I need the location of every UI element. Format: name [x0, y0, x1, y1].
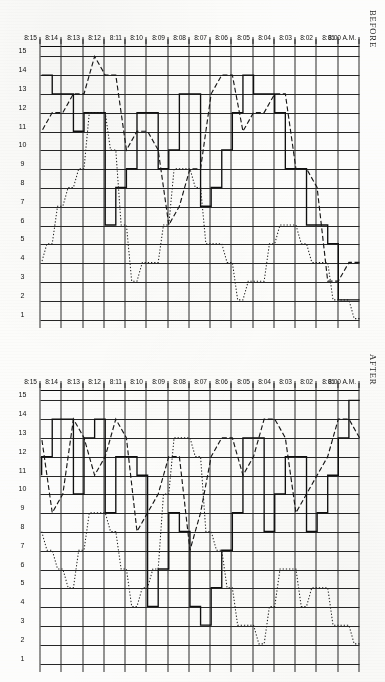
time-tick-label: 8:11	[109, 378, 121, 385]
value-tick-label: 7	[20, 542, 24, 550]
value-tick-label: 1	[20, 655, 24, 663]
plot-area-after	[40, 390, 359, 672]
time-tick-label: 8:02	[300, 34, 313, 41]
scanned-page: BEFORE 8:00 A.M.8:018:028:038:048:058:06…	[0, 0, 385, 682]
time-tick-label: 8:15	[24, 378, 37, 385]
value-tick-label: 6	[20, 561, 24, 569]
figure-stage: BEFORE 8:00 A.M.8:018:028:038:048:058:06…	[0, 0, 385, 682]
value-tick-label: 5	[20, 235, 24, 243]
value-axis-before: 151413121110987654321	[22, 46, 38, 328]
series-path-dashed	[41, 419, 359, 550]
chart-panel-before: BEFORE 8:00 A.M.8:018:028:038:048:058:06…	[0, 8, 385, 338]
series-lines-before	[41, 47, 359, 328]
value-tick-label: 5	[20, 579, 24, 587]
value-axis-after: 151413121110987654321	[22, 390, 38, 672]
time-gridline	[39, 383, 40, 672]
value-tick-label: 7	[20, 198, 24, 206]
value-tick-label: 10	[18, 141, 26, 149]
time-tick-label: 8:14	[45, 378, 58, 385]
value-tick-label: 15	[18, 391, 26, 399]
plot-area-before	[40, 46, 359, 328]
value-tick-label: 3	[20, 273, 24, 281]
value-tick-label: 9	[20, 160, 24, 168]
time-tick-label: 8:10	[130, 34, 143, 41]
time-tick-label: 8:12	[87, 34, 100, 41]
time-tick-label: 8:02	[300, 378, 313, 385]
time-tick-label: 8:01	[321, 378, 334, 385]
value-tick-label: 11	[18, 467, 25, 475]
time-tick-label: 8:04	[258, 378, 271, 385]
time-tick-label: 8:08	[173, 378, 186, 385]
value-tick-label: 4	[20, 254, 24, 262]
time-tick-label: 8:08	[173, 34, 186, 41]
value-tick-label: 12	[18, 448, 26, 456]
value-tick-label: 14	[18, 66, 26, 74]
value-tick-label: 13	[18, 429, 26, 437]
value-tick-label: 4	[20, 598, 24, 606]
value-tick-label: 10	[18, 485, 26, 493]
time-tick-label: 8:12	[87, 378, 100, 385]
time-tick-label: 8:09	[151, 34, 164, 41]
value-tick-label: 3	[20, 617, 24, 625]
time-gridline	[39, 39, 40, 328]
panel-title-before: BEFORE	[367, 10, 377, 48]
time-tick-label: 8:09	[151, 378, 164, 385]
value-tick-label: 14	[18, 410, 26, 418]
panel-title-after: AFTER	[367, 354, 377, 385]
time-tick-label: 8:11	[109, 34, 121, 41]
time-tick-label: 8:13	[66, 34, 79, 41]
time-tick-label: 8:14	[45, 34, 58, 41]
value-tick-label: 11	[18, 123, 25, 131]
time-tick-label: 8:01	[321, 34, 334, 41]
time-axis-after: 8:00 A.M.8:018:028:038:048:058:068:078:0…	[40, 352, 359, 388]
chart-panel-after: AFTER 8:00 A.M.8:018:028:038:048:058:068…	[0, 352, 385, 682]
value-tick-label: 8	[20, 523, 24, 531]
time-tick-label: 8:06	[215, 378, 228, 385]
value-tick-label: 2	[20, 292, 24, 300]
value-tick-label: 2	[20, 636, 24, 644]
time-tick-label: 8:07	[194, 34, 207, 41]
value-tick-label: 6	[20, 217, 24, 225]
time-tick-label: 8:06	[215, 34, 228, 41]
time-tick-label: 8:03	[279, 34, 292, 41]
value-tick-label: 8	[20, 179, 24, 187]
series-lines-after	[41, 391, 359, 672]
value-tick-label: 1	[20, 311, 24, 319]
value-tick-label: 13	[18, 85, 26, 93]
time-tick-label: 8:05	[236, 34, 249, 41]
time-tick-label: 8:15	[24, 34, 37, 41]
value-tick-label: 12	[18, 104, 26, 112]
series-path-dashed	[41, 56, 359, 281]
value-tick-label: 15	[18, 47, 26, 55]
time-tick-label: 8:13	[66, 378, 79, 385]
time-axis-before: 8:00 A.M.8:018:028:038:048:058:068:078:0…	[40, 8, 359, 44]
time-tick-label: 8:05	[236, 378, 249, 385]
time-tick-label: 8:03	[279, 378, 292, 385]
time-tick-label: 8:10	[130, 378, 143, 385]
time-tick-label: 8:04	[258, 34, 271, 41]
time-tick-label: 8:07	[194, 378, 207, 385]
value-tick-label: 9	[20, 504, 24, 512]
